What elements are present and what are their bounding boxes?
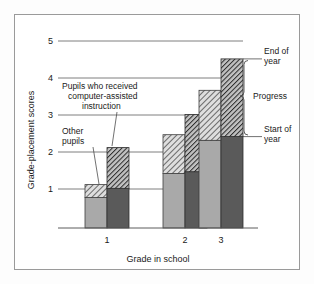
bar-dark-1-solid xyxy=(107,188,129,228)
y-tick-label-3: 3 xyxy=(48,110,53,120)
bar-chart-canvas: 5 4 3 2 1 Grade-placement scores xyxy=(0,0,314,284)
start-of-year-line-1: Start of xyxy=(264,124,292,134)
y-axis-title: Grade-placement scores xyxy=(26,90,36,189)
x-tick-label-3: 3 xyxy=(218,235,223,245)
cai-label-line-1: Pupils who received xyxy=(62,81,138,91)
start-of-year-line-2: year xyxy=(264,134,281,144)
x-axis-title: Grade in school xyxy=(126,254,189,264)
end-of-year-line-2: year xyxy=(264,56,281,66)
annotation-other: Other pupils xyxy=(62,126,99,184)
bar-light-1-solid xyxy=(85,198,107,228)
y-axis: 5 4 3 2 1 xyxy=(48,36,53,194)
bar-dark-3-hatch xyxy=(221,59,243,137)
cai-label-line-2: computer-assisted xyxy=(68,91,138,101)
cai-label-line-3: instruction xyxy=(82,101,121,111)
cai-leader-line xyxy=(112,112,117,146)
bar-light-3-solid xyxy=(199,140,221,228)
y-tick-label-2: 2 xyxy=(48,147,53,157)
y-tick-label-1: 1 xyxy=(48,184,53,194)
other-label-line-1: Other xyxy=(62,126,83,136)
x-tick-label-1: 1 xyxy=(104,235,109,245)
y-tick-label-4: 4 xyxy=(48,73,53,83)
other-leader-line xyxy=(93,147,99,184)
bar-light-2-hatch xyxy=(163,135,185,174)
bar-light-3-hatch xyxy=(199,90,221,140)
end-of-year-line-1: End of xyxy=(264,46,289,56)
bar-dark-1-hatch xyxy=(107,148,129,189)
progress-label: Progress xyxy=(253,91,287,101)
bar-group-1 xyxy=(85,148,129,228)
other-label-line-2: pupils xyxy=(62,136,84,146)
bar-light-2-solid xyxy=(163,174,185,229)
bar-light-1-hatch xyxy=(85,185,107,198)
side-annotations: End of year Start of year Progress xyxy=(240,46,292,144)
y-tick-label-5: 5 xyxy=(48,36,53,46)
bar-dark-3-solid xyxy=(221,137,243,228)
x-axis: 1 2 3 xyxy=(104,235,223,245)
bar-group-3 xyxy=(199,59,243,228)
chart-figure: 5 4 3 2 1 Grade-placement scores xyxy=(0,0,314,284)
x-tick-label-2: 2 xyxy=(182,235,187,245)
